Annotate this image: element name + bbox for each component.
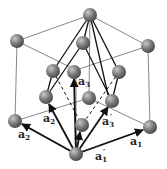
atom [46, 64, 60, 78]
atom [143, 120, 157, 134]
atom [76, 36, 90, 50]
atom [10, 34, 24, 48]
fcc-lattice-diagram: a1 a2 a3 a1′ a2′ a3′ [0, 0, 167, 169]
lattice-vectors [22, 79, 143, 154]
atom [39, 90, 53, 104]
label-a2: a2 [18, 128, 30, 142]
atom [141, 39, 155, 53]
atom [8, 114, 22, 128]
label-a1-prime: a1′ [95, 146, 107, 164]
atom [105, 94, 119, 108]
atom [82, 91, 96, 105]
atom [69, 147, 83, 161]
atom [83, 8, 97, 22]
atom [112, 65, 126, 79]
label-a1: a1 [130, 135, 142, 149]
label-a3: a3 [78, 75, 90, 89]
atom [75, 118, 89, 132]
